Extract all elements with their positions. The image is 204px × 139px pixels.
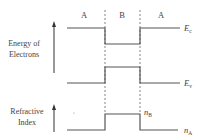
refractive-axis-label-line1: Refractive: [10, 107, 44, 116]
region-label-a-left: A: [81, 10, 88, 20]
region-label-a-right: A: [158, 10, 165, 20]
energy-axis-label-line2: Electrons: [9, 50, 39, 59]
energy-axis-arrow: [52, 21, 56, 73]
index-a-label: nA: [184, 125, 192, 136]
conduction-band-label: Ec: [183, 23, 192, 34]
stray-dot: [73, 112, 74, 113]
valence-band-edge: [67, 67, 180, 83]
energy-axis-label-line1: Energy of: [8, 39, 40, 48]
refractive-axis-arrow: [52, 104, 56, 132]
index-b-label: nB: [144, 107, 152, 118]
refractive-index-profile: [67, 114, 178, 130]
conduction-band-edge: [67, 28, 180, 44]
valence-band-label: Ev: [183, 78, 192, 89]
refractive-axis-label-line2: Index: [18, 118, 36, 127]
heterostructure-band-diagram: A B A Energy of Electrons Ec Ev Refracti…: [0, 0, 204, 139]
region-label-b: B: [119, 10, 125, 20]
